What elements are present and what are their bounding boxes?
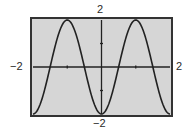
x-max-label: 2: [176, 61, 182, 72]
y-min-label: −2: [93, 118, 106, 129]
graph-window: [0, 0, 184, 130]
x-min-label: −2: [10, 61, 23, 72]
y-max-label: 2: [97, 4, 103, 15]
